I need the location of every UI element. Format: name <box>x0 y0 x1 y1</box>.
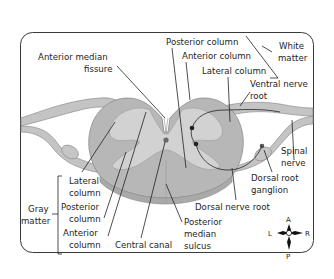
label-posterior-median-sulcus: Posterior <box>184 217 222 227</box>
spinal-cord-diagram: Anterior median fissure Posterior column… <box>0 0 334 279</box>
svg-text:matter: matter <box>278 53 308 63</box>
compass-right: R <box>305 230 310 238</box>
label-posterior-column-gm: Posterior <box>61 202 99 212</box>
label-central-canal: Central canal <box>115 240 172 250</box>
label-lateral-column-wm: Lateral column <box>202 66 266 76</box>
label-anterior-column-gm: Anterior <box>63 228 98 238</box>
svg-text:column: column <box>69 188 101 198</box>
label-gray-matter: Gray <box>28 204 49 214</box>
label-dorsal-nerve-root: Dorsal nerve root <box>195 202 271 212</box>
svg-text:nerve: nerve <box>281 158 306 168</box>
svg-text:median: median <box>184 229 216 239</box>
label-white-matter: White <box>279 41 304 51</box>
svg-text:sulcus: sulcus <box>184 241 211 251</box>
compass-posterior: P <box>286 253 290 261</box>
label-spinal-nerve: Spinal <box>281 146 307 156</box>
label-posterior-column-wm: Posterior column <box>166 37 238 47</box>
svg-text:matter: matter <box>21 216 51 226</box>
central-canal <box>163 137 168 142</box>
svg-text:ganglion: ganglion <box>251 185 288 195</box>
svg-text:root: root <box>250 91 268 101</box>
compass-left: L <box>268 230 272 238</box>
label-ventral-nerve-root: Ventral nerve <box>250 79 308 89</box>
compass-anterior: A <box>286 216 291 224</box>
label-anterior-column-wm: Anterior column <box>182 51 251 61</box>
label-lateral-column-gm: Lateral <box>69 176 99 186</box>
label-anterior-median-fissure: Anterior median <box>38 52 108 62</box>
svg-text:fissure: fissure <box>84 64 112 74</box>
svg-text:column: column <box>69 214 101 224</box>
svg-text:column: column <box>69 240 101 250</box>
label-dorsal-root-ganglion: Dorsal root <box>251 173 299 183</box>
